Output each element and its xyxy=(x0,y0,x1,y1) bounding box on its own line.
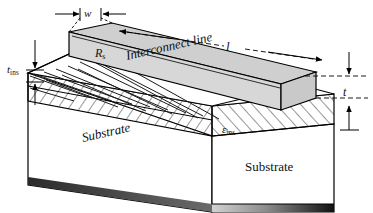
l-arrow-right xyxy=(268,52,322,60)
interconnect-diagram: w l t tins Rs εins Interconnect line Sub… xyxy=(0,0,373,213)
substrate-front-face xyxy=(212,124,334,212)
base-shadow-front xyxy=(212,204,334,212)
w-ext-right xyxy=(101,18,112,23)
diagram-canvas xyxy=(0,0,373,213)
